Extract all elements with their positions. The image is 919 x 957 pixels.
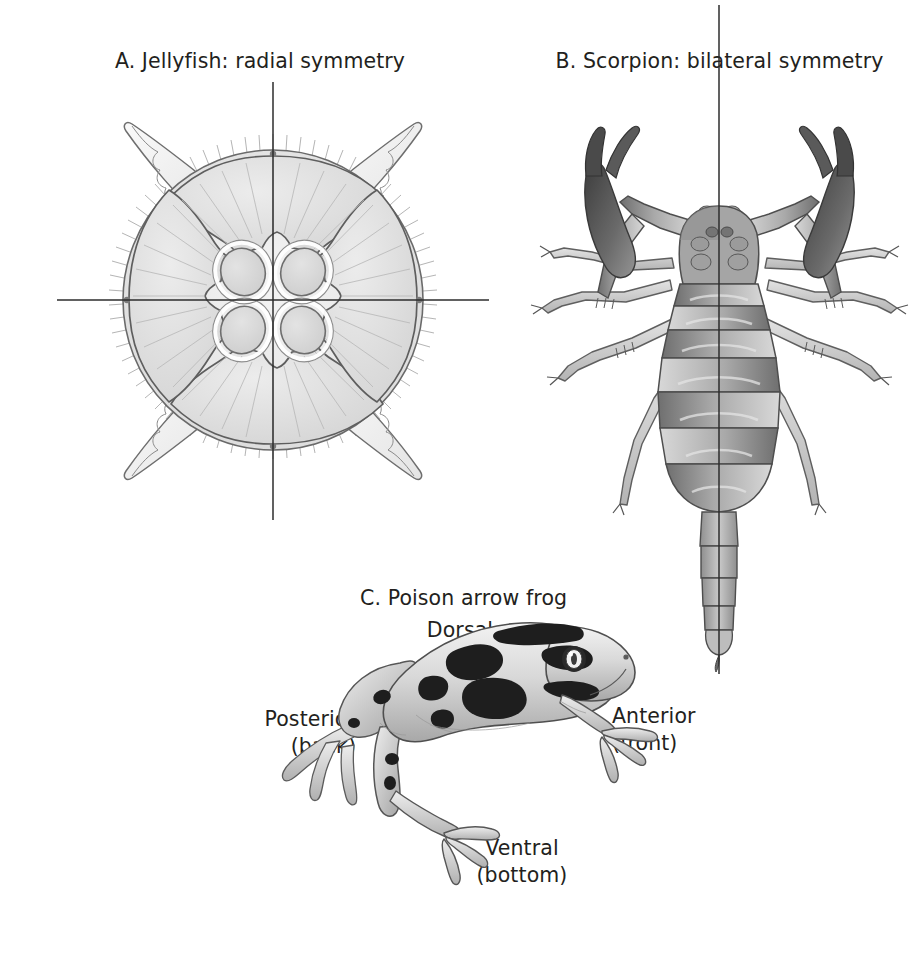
panel-frog (230, 575, 710, 895)
frog-illustration (230, 575, 710, 895)
figure-root: A. Jellyfish: radial symmetry (0, 0, 919, 957)
panel-jellyfish (0, 0, 520, 560)
jellyfish-illustration (0, 0, 520, 560)
frog-hind-foot (282, 725, 356, 805)
frog-forelimb (560, 695, 657, 783)
frog-hind-foot-lower (390, 791, 499, 885)
frog-eye (562, 646, 586, 672)
